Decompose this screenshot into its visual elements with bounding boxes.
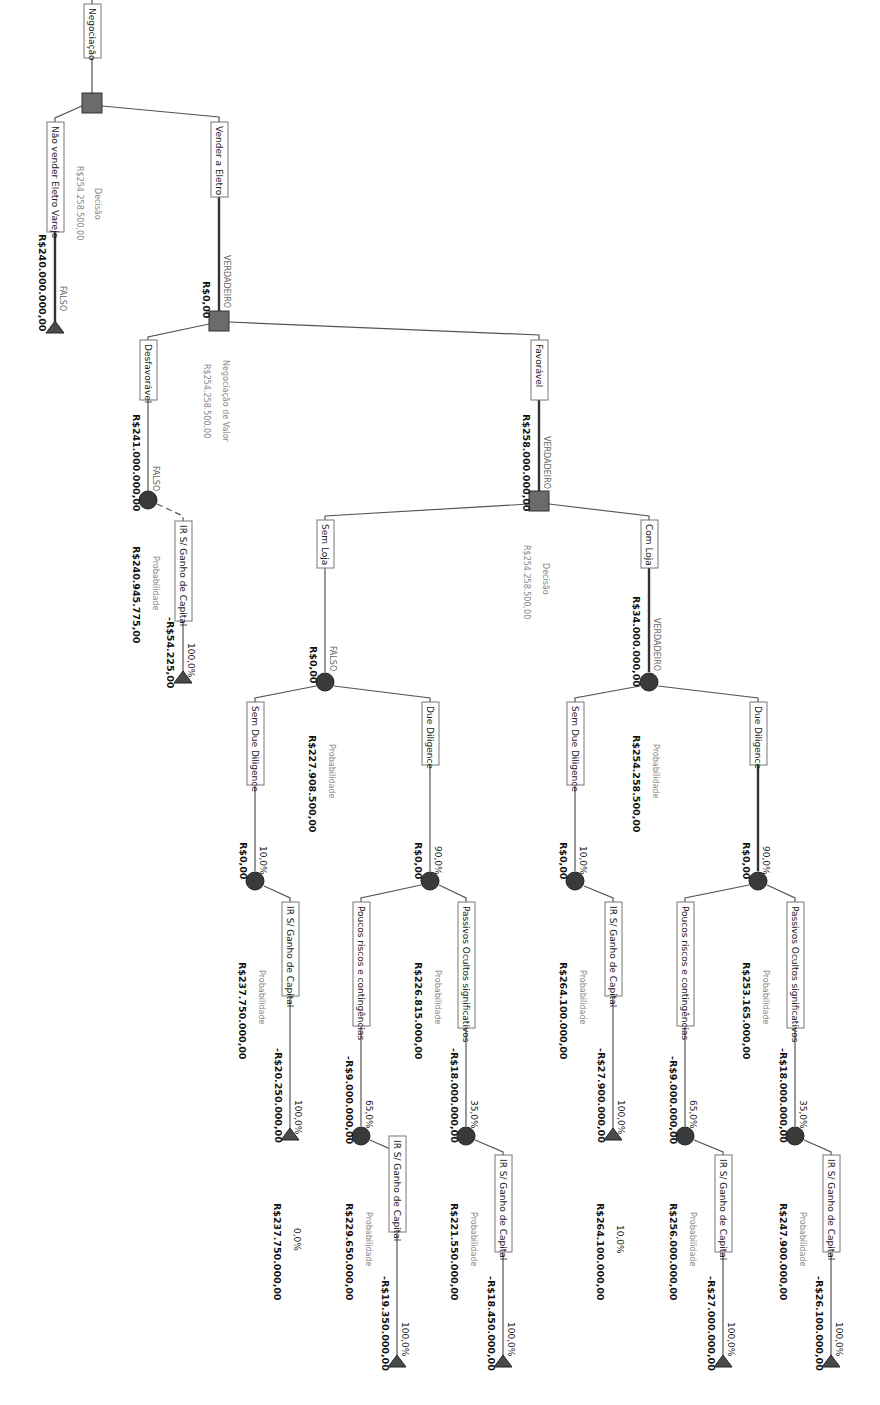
branch-label-sem-loja[interactable]: Sem Loja <box>320 524 330 565</box>
com-loja-dd-value: R$253.165.000,00 <box>741 962 752 1060</box>
nao-vender-flag: FALSO <box>58 286 67 311</box>
sem-loja-dd-prob: 90,0% <box>433 846 443 875</box>
com-loja-poucos-prob: 65,0% <box>688 1100 698 1129</box>
root-value: R$254.258.500,00 <box>75 166 84 240</box>
sem-loja-passivos-ir-payoff: -R$18.450.000,00 <box>486 1276 497 1371</box>
branch-label-sem-loja-poucos[interactable]: Poucos riscos e contingências <box>356 906 366 1040</box>
branch-label-com-loja-passivos-ir[interactable]: IR S/ Ganho de Capital <box>826 1159 836 1260</box>
negociacao-valor-value: R$254.258.500,00 <box>202 364 211 438</box>
branch-label-vender[interactable]: Vender a Eletro <box>214 126 224 196</box>
com-loja-dd-prob: 90,0% <box>761 846 771 875</box>
branch-label-sem-loja-passivos[interactable]: Passivos Ocultos significativos <box>461 906 471 1043</box>
sem-loja-sem-dd-payoff: R$0,00 <box>238 842 249 880</box>
com-loja-sem-dd-payoff: R$0,00 <box>558 842 569 880</box>
branch-label-com-loja-passivos[interactable]: Passivos Ocultos significativos <box>790 906 800 1043</box>
com-loja-poucos-value: R$256.000.000,00 <box>668 1203 679 1301</box>
root-kind: Decisão <box>93 188 102 220</box>
sem-loja-sem-dd-prob: 10,0% <box>258 846 268 875</box>
sem-loja-poucos-ir-payoff: -R$19.350.000,00 <box>380 1276 391 1371</box>
com-loja-poucos-kind: Probabilidade <box>688 1212 697 1266</box>
sem-loja-sem-dd-kind: Probabilidade <box>257 970 266 1024</box>
sem-loja-sem-dd-end-prob: 0,0% <box>292 1228 302 1251</box>
com-loja-passivos-kind: Probabilidade <box>798 1212 807 1266</box>
sem-loja-dd-value: R$226.815.000,00 <box>413 962 424 1060</box>
sem-loja-dd-payoff: R$0,00 <box>413 842 424 880</box>
root-label[interactable]: Negociação <box>87 8 97 61</box>
com-loja-dd-payoff: R$0,00 <box>741 842 752 880</box>
vender-payoff: R$0,00 <box>201 281 212 319</box>
desfav-ir-prob: 100,0% <box>186 643 196 678</box>
com-loja-sem-dd-kind: Probabilidade <box>578 970 587 1024</box>
favoravel-value: R$254.258.500,00 <box>522 545 531 619</box>
sem-loja-poucos-value: R$229.650.000,00 <box>344 1203 355 1301</box>
sem-loja-sem-dd-ir-payoff: -R$20.250.000,00 <box>273 1048 284 1143</box>
desfav-value: R$240.945.775,00 <box>131 546 142 644</box>
com-loja-sem-dd-value: R$264.100.000,00 <box>558 962 569 1060</box>
vender-flag: VERDADEIRO <box>222 255 231 308</box>
branch-label-com-loja[interactable]: Com Loja <box>644 524 654 566</box>
sem-loja-passivos-ir-prob: 100,0% <box>506 1322 516 1357</box>
sem-loja-sem-dd-ir-prob: 100,0% <box>293 1100 303 1135</box>
branch-label-nao-vender[interactable]: Não vender Eletro Varejo <box>50 126 60 239</box>
branch-label-com-loja-poucos-ir[interactable]: IR S/ Ganho de Capital <box>718 1159 728 1260</box>
com-loja-sem-dd-ir-payoff: -R$27.900.000,00 <box>596 1048 607 1143</box>
com-loja-kind: Probabilidade <box>651 744 660 798</box>
sem-loja-flag: FALSO <box>328 646 337 671</box>
com-loja-poucos-ir-payoff: -R$27.000.000,00 <box>706 1276 717 1371</box>
com-loja-passivos-prob: 35,0% <box>798 1100 808 1129</box>
nao-vender-payoff: R$240.000.000,00 <box>37 234 48 332</box>
branch-label-sem-loja-sem-dd-ir[interactable]: IR S/ Ganho de Capital <box>285 906 295 1007</box>
node-annotations: Decisão R$254.258.500,00 Negociação de V… <box>75 166 807 1301</box>
desfav-flag: FALSO <box>151 466 160 491</box>
desfav-payoff: R$241.000.000,00 <box>131 414 142 512</box>
com-loja-poucos-ir-prob: 100,0% <box>726 1322 736 1357</box>
branch-label-sem-loja-sem-dd[interactable]: Sem Due Diligence <box>250 706 260 792</box>
com-loja-value: R$254.258.500,00 <box>631 735 642 833</box>
com-loja-passivos-ir-payoff: -R$26.100.000,00 <box>814 1276 825 1371</box>
branch-label-com-loja-dd[interactable]: Due Diligence <box>753 706 763 769</box>
sem-loja-passivos-value: R$221.550.000,00 <box>449 1203 460 1301</box>
com-loja-passivos-payoff: -R$18.000.000,00 <box>778 1048 789 1143</box>
sem-loja-poucos-prob: 65,0% <box>364 1100 374 1129</box>
sem-loja-payoff: R$0,00 <box>308 646 319 684</box>
branch-label-com-loja-sem-dd[interactable]: Sem Due Diligence <box>570 706 580 792</box>
sem-loja-kind: Probabilidade <box>327 744 336 798</box>
sem-loja-passivos-kind: Probabilidade <box>469 1212 478 1266</box>
branch-label-desfav-ir[interactable]: IR S/ Ganho de Capital <box>178 525 188 626</box>
sem-loja-poucos-kind: Probabilidade <box>364 1212 373 1266</box>
favoravel-flag: VERDADEIRO <box>542 436 551 489</box>
desfav-ir-payoff: -R$54.225,00 <box>165 617 176 689</box>
com-loja-flag: VERDADEIRO <box>652 618 661 671</box>
branch-label-sem-loja-dd[interactable]: Due Diligence <box>425 706 435 769</box>
branch-label-com-loja-sem-dd-ir[interactable]: IR S/ Ganho de Capital <box>608 906 618 1007</box>
com-loja-dd-kind: Probabilidade <box>761 970 770 1024</box>
branch-label-favoravel[interactable]: Favorável <box>534 344 544 387</box>
sem-loja-value: R$227.908.500,00 <box>307 735 318 833</box>
sem-loja-passivos-prob: 35,0% <box>469 1100 479 1129</box>
branch-label-com-loja-poucos[interactable]: Poucos riscos e contingências <box>680 906 690 1040</box>
sem-loja-dd-kind: Probabilidade <box>433 970 442 1024</box>
sem-loja-passivos-payoff: -R$18.000.000,00 <box>449 1048 460 1143</box>
branch-label-sem-loja-passivos-ir[interactable]: IR S/ Ganho de Capital <box>498 1159 508 1260</box>
favoravel-kind: Decisão <box>541 563 550 595</box>
favoravel-payoff: R$258.000.000,00 <box>521 414 532 512</box>
com-loja-passivos-ir-prob: 100,0% <box>834 1322 844 1357</box>
sem-loja-sem-dd-value: R$237.750.000,00 <box>237 962 248 1060</box>
sem-loja-poucos-ir-prob: 100,0% <box>400 1322 410 1357</box>
decision-tree-canvas: Negociação Não vender Eletro Varejo Vend… <box>0 0 880 1405</box>
com-loja-payoff: R$34.000.000,00 <box>631 596 642 687</box>
sem-loja-poucos-payoff: -R$9.000.000,00 <box>344 1056 355 1145</box>
branch-label-desfavoravel[interactable]: Desfavorável <box>143 344 153 403</box>
com-loja-sem-dd-ir-prob: 100,0% <box>616 1100 626 1135</box>
negociacao-valor-kind: Negociação de Valor <box>221 360 230 443</box>
desfav-kind: Probabilidade <box>151 556 160 610</box>
com-loja-poucos-payoff: -R$9.000.000,00 <box>668 1056 679 1145</box>
sem-loja-sem-dd-end-value: R$237.750.000,00 <box>272 1203 283 1301</box>
com-loja-sem-dd-end-value: R$264.100.000,00 <box>595 1203 606 1301</box>
com-loja-sem-dd-end-prob: 10,0% <box>615 1225 625 1254</box>
com-loja-sem-dd-prob: 10,0% <box>578 846 588 875</box>
branch-label-sem-loja-poucos-ir[interactable]: IR S/ Ganho de Capital <box>392 1140 402 1241</box>
decision-node-root[interactable] <box>82 93 102 113</box>
com-loja-passivos-value: R$247.900.000,00 <box>778 1203 789 1301</box>
